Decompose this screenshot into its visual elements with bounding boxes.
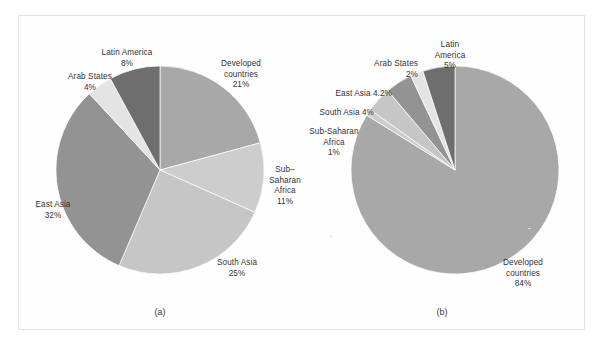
label-developed-countries-b: Developed countries 84% xyxy=(490,258,556,290)
label-developed-countries-a: Developed countries 21% xyxy=(208,59,274,91)
figure-container: Latin America 8% Arab States 4% East Asi… xyxy=(0,0,611,349)
label-arab-states-a: Arab States 4% xyxy=(54,72,126,93)
pie-chart-panel-b: Latin America 5% Arab States 2% East Asi… xyxy=(302,15,585,330)
label-south-asia-b: South Asia 4% xyxy=(300,108,374,119)
label-east-asia-a: East Asia 32% xyxy=(22,200,84,221)
label-sub-saharan-africa-a: Sub– Saharan Africa 11% xyxy=(263,165,307,207)
label-arab-states-b: Arab States 2% xyxy=(350,59,418,80)
label-sub-saharan-africa-b: Sub-Saharan Africa 1% xyxy=(300,127,368,159)
panel-caption-b: (b) xyxy=(412,307,472,317)
panel-caption-a: (a) xyxy=(130,307,190,317)
label-east-asia-b: East Asia 4.2% xyxy=(314,89,392,100)
scan-speck xyxy=(330,236,333,237)
scan-speck xyxy=(528,228,531,229)
label-latin-america-a: Latin America 8% xyxy=(84,48,170,69)
scan-speck xyxy=(36,207,39,208)
label-south-asia-a: South Asia 25% xyxy=(202,258,272,279)
label-latin-america-b: Latin America 5% xyxy=(422,40,478,72)
pie-chart-panel-a: Latin America 8% Arab States 4% East Asi… xyxy=(18,15,302,330)
